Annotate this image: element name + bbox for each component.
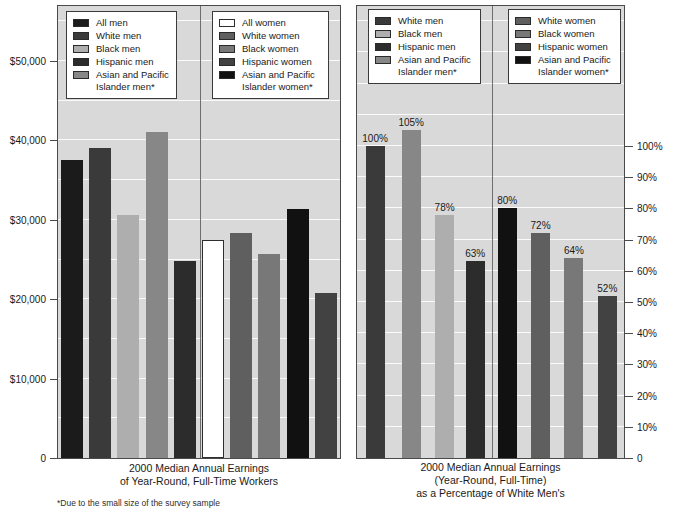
axis-tick — [625, 427, 633, 428]
legend-item: White women — [515, 15, 614, 27]
legend-label: Hispanic men — [96, 56, 170, 68]
bar-hispanic-women — [598, 296, 617, 458]
legend-item: Asian and Pacific Islander men* — [73, 69, 170, 93]
bar-hispanic-men — [466, 261, 485, 458]
caption-line: 2000 Median Annual Earnings — [356, 461, 625, 474]
legend-swatch-hispanic-women — [219, 58, 235, 66]
bar-value-label: 78% — [435, 202, 455, 213]
bar-slot: 52% — [597, 283, 617, 458]
bar-slot — [61, 160, 83, 458]
bar-slot — [258, 254, 280, 458]
legend-item: White men — [73, 30, 170, 42]
legend-item: Asian and Pacific Islander men* — [375, 54, 474, 78]
bar-slot — [202, 240, 224, 458]
axis-tick-label: 10% — [637, 423, 657, 433]
2000-median-annual-earnings-of-year-round-full-time-workers-plot-area: All menWhite menBlack menHispanic menAsi… — [57, 5, 341, 459]
axis-tick-label: 100% — [637, 142, 663, 152]
legend-item: Black women — [219, 43, 322, 55]
axis-tick — [625, 208, 633, 209]
legend-item: Hispanic men — [73, 56, 170, 68]
axis-tick-label: 0 — [0, 454, 46, 464]
legend-swatch-black-women — [515, 30, 531, 38]
legend-box-men: White menBlack menHispanic menAsian and … — [368, 9, 481, 84]
bar-hispanic-women — [315, 293, 337, 458]
legend-label: Asian and Pacific Islander women* — [242, 69, 322, 93]
axis-tick-label: 30% — [637, 360, 657, 370]
legend-item: All women — [219, 17, 322, 29]
legend-item: White men — [375, 15, 474, 27]
bar-value-label: 80% — [497, 195, 517, 206]
legend-item: Hispanic women — [515, 41, 614, 53]
axis-tick — [625, 458, 633, 459]
axis-tick-label: $40,000 — [0, 136, 46, 146]
legend-item: Asian and Pacific Islander women* — [515, 54, 614, 78]
bar-slot: 63% — [465, 248, 485, 458]
bar-value-label: 52% — [597, 283, 617, 294]
axis-tick — [50, 458, 57, 459]
bar-slot: 80% — [497, 195, 517, 458]
legend-item: Black men — [375, 28, 474, 40]
legend-label: Black women — [538, 28, 614, 40]
bar-black-men — [117, 215, 139, 458]
bar-slot — [117, 215, 139, 458]
legend-label: Asian and Pacific Islander women* — [538, 54, 614, 78]
legend-box-women: White womenBlack womenHispanic womenAsia… — [508, 9, 621, 84]
legend-swatch-white-men — [375, 17, 391, 25]
axis-tick-label: 0 — [637, 454, 643, 464]
legend-item: Hispanic men — [375, 41, 474, 53]
caption-line: (Year-Round, Full-Time) — [356, 474, 625, 487]
bar-black-men — [435, 215, 454, 458]
legend-swatch-all-women — [219, 19, 235, 27]
bar-value-label: 100% — [362, 133, 388, 144]
legend-label: Hispanic women — [242, 56, 322, 68]
legend-swatch-asian-and-pacific-islander-men — [375, 56, 391, 64]
legend-item: Black women — [515, 28, 614, 40]
bar-black-women — [258, 254, 280, 458]
bar-value-label: 72% — [531, 220, 551, 231]
bar-value-label: 64% — [564, 245, 584, 256]
bar-all-women — [202, 240, 224, 458]
axis-tick — [625, 146, 633, 147]
legend-swatch-asian-and-pacific-islander-women — [219, 71, 235, 79]
bar-slot: 100% — [362, 133, 388, 458]
axis-tick-label: 60% — [637, 267, 657, 277]
bar-asian-and-pacific-islander-women — [287, 209, 309, 458]
legend-label: Hispanic women — [538, 41, 614, 53]
bar-hispanic-men — [174, 261, 196, 458]
2000-median-annual-earnings-year-round-full-time-as-a-percentage-of-white-men-s-plot-area: 100%105%78%63%80%72%64%52%White menBlack… — [356, 5, 625, 459]
caption-line: of Year-Round, Full-Time Workers — [57, 475, 341, 488]
bar-slot — [315, 293, 337, 458]
caption-line: 2000 Median Annual Earnings — [57, 462, 341, 475]
legend-swatch-black-men — [375, 30, 391, 38]
axis-tick-label: $20,000 — [0, 295, 46, 305]
axis-tick — [50, 220, 57, 221]
legend-swatch-white-women — [515, 17, 531, 25]
axis-tick-label: $30,000 — [0, 216, 46, 226]
axis-tick — [50, 379, 57, 380]
legend-label: Asian and Pacific Islander men* — [96, 69, 170, 93]
legend-swatch-hispanic-men — [73, 58, 89, 66]
legend-item: Asian and Pacific Islander women* — [219, 69, 322, 93]
caption-line: as a Percentage of White Men's — [356, 487, 625, 500]
bar-value-label: 105% — [398, 117, 424, 128]
legend-item: Hispanic women — [219, 56, 322, 68]
bar-white-men — [89, 148, 111, 458]
2000-median-annual-earnings-of-year-round-full-time-workers-caption: 2000 Median Annual Earningsof Year-Round… — [57, 462, 341, 488]
legend-swatch-white-men — [73, 32, 89, 40]
legend-swatch-hispanic-women — [515, 43, 531, 51]
axis-tick-label: 90% — [637, 173, 657, 183]
legend-label: Black men — [398, 28, 474, 40]
bar-slot — [146, 132, 168, 458]
legend-swatch-asian-and-pacific-islander-women — [515, 56, 531, 64]
axis-tick — [50, 299, 57, 300]
axis-tick — [50, 61, 57, 62]
legend-swatch-black-men — [73, 45, 89, 53]
bar-white-women — [230, 233, 252, 458]
legend-item: All men — [73, 17, 170, 29]
legend-label: All men — [96, 17, 170, 29]
bar-asian-and-pacific-islander-women — [498, 208, 517, 458]
bar-slot — [89, 148, 111, 458]
bar-slot — [287, 209, 309, 458]
axis-tick-label: 80% — [637, 204, 657, 214]
legend-swatch-hispanic-men — [375, 43, 391, 51]
